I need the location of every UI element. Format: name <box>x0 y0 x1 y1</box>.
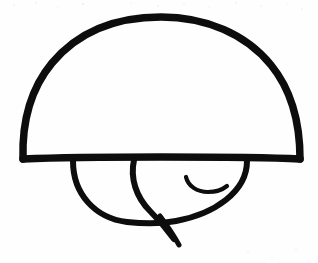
paper-speck <box>301 8 302 9</box>
paper-speck <box>157 5 159 7</box>
paper-speck <box>295 249 296 250</box>
paper-speck <box>286 3 287 4</box>
ink-layer <box>23 17 300 245</box>
paper-speck <box>103 7 104 8</box>
paper-speck <box>235 2 237 4</box>
paper-speck <box>183 3 184 4</box>
dome-baseline <box>23 157 300 159</box>
paper-speck <box>57 6 58 7</box>
sketch-canvas <box>0 0 318 263</box>
paper-speck <box>208 6 209 7</box>
paper-speck <box>35 2 36 3</box>
sketch-svg <box>0 0 318 263</box>
paper-speck <box>130 2 131 3</box>
paper-speck <box>260 5 261 6</box>
paper-speck <box>247 251 248 252</box>
dome-cap <box>23 17 300 159</box>
paper-speck <box>13 4 15 6</box>
paper-speck <box>82 3 84 5</box>
paper-speck <box>271 256 272 257</box>
hook-stroke <box>186 177 227 192</box>
